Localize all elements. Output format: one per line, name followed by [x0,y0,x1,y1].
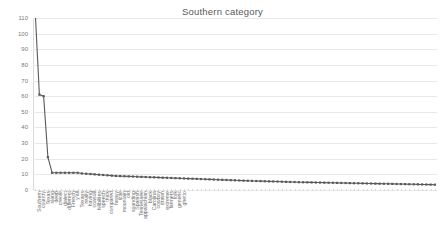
data-point [166,177,168,179]
data-point [276,180,278,182]
data-point [170,177,172,179]
data-point [183,177,185,179]
x-axis-tick [397,189,398,191]
x-axis-tick [209,189,210,191]
x-axis-tick [363,189,364,191]
x-axis-tick [392,189,393,191]
data-point [259,180,261,182]
x-axis-tick [273,189,274,191]
x-axis-tick [405,189,406,191]
data-point [387,183,389,185]
x-axis-tick [290,189,291,191]
x-axis-tick [261,189,262,191]
data-point [102,174,104,176]
chart-container: Southern category 0102030405060708090100… [0,0,445,242]
data-point [221,179,223,181]
data-point [349,182,351,184]
data-point [191,178,193,180]
y-axis-tick-label: 0 [2,187,28,193]
data-point [204,178,206,180]
y-axis-tick-label: 30 [2,140,28,146]
data-point [145,176,147,178]
data-point [251,180,253,182]
data-point [153,176,155,178]
y-axis-tick-label: 40 [2,124,28,130]
data-point [230,179,232,181]
data-point [302,181,304,183]
y-axis-tick-label: 80 [2,62,28,68]
x-axis-tick [431,189,432,191]
data-point [64,172,66,174]
data-point [72,172,74,174]
data-point [217,179,219,181]
x-axis-tick [371,189,372,191]
data-point [128,175,130,177]
data-point [327,182,329,184]
data-point [319,181,321,183]
data-point [85,173,87,175]
data-point [434,184,436,186]
x-axis-tick [367,189,368,191]
data-point [336,182,338,184]
data-point [255,180,257,182]
data-point [98,174,100,176]
data-point [136,176,138,178]
x-axis-tick [435,189,436,191]
x-axis-labels: SoutherncountryTexasslangdeepcreolediale… [33,191,437,242]
data-point [281,181,283,183]
x-axis-tick [226,189,227,191]
x-axis-tick-label: ghetto [182,191,187,205]
data-point [310,181,312,183]
data-point [383,183,385,185]
data-point [298,181,300,183]
x-axis-tick [265,189,266,191]
data-point [77,172,79,174]
x-axis-tick [252,189,253,191]
data-point [115,175,117,177]
x-axis-tick [414,189,415,191]
data-point [396,183,398,185]
y-axis-tick-label: 110 [2,15,28,21]
data-point [264,180,266,182]
x-axis-tick [384,189,385,191]
data-point [47,156,49,158]
y-axis-tick-label: 100 [2,31,28,37]
data-point [200,178,202,180]
data-point [323,182,325,184]
data-point [289,181,291,183]
x-axis-tick [312,189,313,191]
y-axis-tick-label: 70 [2,78,28,84]
x-axis-tick [201,189,202,191]
y-axis-tick-label: 60 [2,93,28,99]
x-axis-tick [256,189,257,191]
data-point [268,180,270,182]
data-point [378,183,380,185]
data-point [68,172,70,174]
x-axis-tick [205,189,206,191]
data-point [213,178,215,180]
x-axis-tick [244,189,245,191]
x-axis-tick [320,189,321,191]
data-point [43,95,45,97]
data-point [225,179,227,181]
data-point [162,177,164,179]
data-point [196,178,198,180]
x-axis-tick [409,189,410,191]
chart-title: Southern category [0,6,445,17]
plot-area [33,18,437,190]
data-point [208,178,210,180]
data-point [187,177,189,179]
data-point [366,182,368,184]
x-axis-tick [231,189,232,191]
data-point [306,181,308,183]
data-point [157,176,159,178]
data-point [60,172,62,174]
data-point [123,175,125,177]
x-axis-tick [218,189,219,191]
x-axis-tick [295,189,296,191]
x-axis-tick [426,189,427,191]
x-axis-tick [341,189,342,191]
data-point [421,183,423,185]
x-axis-tick [188,189,189,191]
data-point [234,179,236,181]
